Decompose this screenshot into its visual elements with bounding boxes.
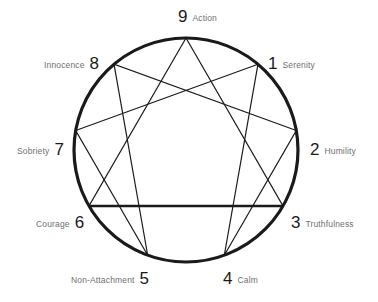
point-word-6: Courage [36,220,70,229]
point-word-9: Action [192,14,217,23]
point-number-5: 5 [140,270,149,287]
enneagram-point-9: 9Action [178,8,217,25]
enneagram-hexad [76,64,297,255]
enneagram-diagram: 9Action1Serenity2Humility3Truthfulness4C… [0,0,378,302]
enneagram-point-4: 4Calm [223,270,258,287]
point-word-8: Innocence [44,61,85,70]
enneagram-point-5: 5Non-Attachment [71,270,149,287]
enneagram-point-2: 2Humility [310,141,356,158]
enneagram-point-3: 3Truthfulness [291,214,354,231]
point-word-1: Serenity [282,61,314,70]
point-number-7: 7 [54,141,63,158]
point-word-4: Calm [237,276,257,285]
enneagram-point-1: 1Serenity [268,55,315,72]
point-number-1: 1 [268,55,277,72]
point-number-8: 8 [90,55,99,72]
enneagram-point-8: 8Innocence [44,55,99,72]
point-word-2: Humility [324,147,355,156]
enneagram-point-7: 7Sobriety [17,141,64,158]
enneagram-circle [74,38,298,262]
enneagram-point-6: 6Courage [36,214,84,231]
point-word-5: Non-Attachment [71,276,135,285]
point-number-3: 3 [291,214,300,231]
point-word-7: Sobriety [17,147,49,156]
enneagram-triangle [89,38,283,206]
point-number-4: 4 [223,270,232,287]
point-number-9: 9 [178,8,187,25]
point-number-6: 6 [75,214,84,231]
point-word-3: Truthfulness [305,220,353,229]
point-number-2: 2 [310,141,319,158]
